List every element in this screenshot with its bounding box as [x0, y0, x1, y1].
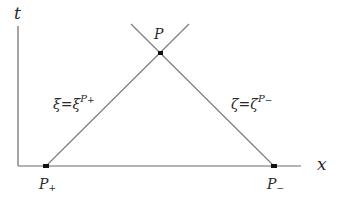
- xi-eq: =: [61, 96, 73, 112]
- point-p-plus-main: P: [39, 176, 48, 192]
- point-p-minus-main: P: [267, 176, 276, 192]
- point-p-plus-marker: [43, 164, 49, 168]
- characteristic-zeta-line: [131, 24, 274, 166]
- xi-sup-sub: +: [87, 95, 95, 105]
- xi-lhs: ξ: [53, 96, 61, 112]
- point-p-minus-sub: −: [276, 183, 284, 193]
- characteristics-diagram: t x P P+ P− ξ=ξP+ ζ=ζP−: [0, 0, 337, 199]
- point-p-plus-sub: +: [48, 183, 56, 193]
- zeta-equation-label: ζ=ζP−: [231, 97, 272, 111]
- x-axis-label: x: [317, 156, 327, 173]
- xi-superscript: P+: [80, 93, 94, 104]
- zeta-rhs: ζ: [250, 96, 258, 112]
- xi-rhs: ξ: [72, 96, 80, 112]
- point-p-label: P: [154, 27, 163, 41]
- t-axis-label: t: [14, 5, 21, 22]
- zeta-eq: =: [239, 96, 251, 112]
- point-p-minus-label: P−: [267, 177, 284, 191]
- zeta-sup-main: P: [258, 93, 265, 104]
- xi-sup-main: P: [80, 93, 87, 104]
- zeta-sup-sub: −: [265, 95, 273, 105]
- point-p-minus-marker: [271, 164, 277, 168]
- zeta-lhs: ζ: [231, 96, 239, 112]
- xi-equation-label: ξ=ξP+: [53, 97, 94, 111]
- point-p-marker: [158, 51, 163, 55]
- zeta-superscript: P−: [258, 93, 272, 104]
- characteristic-xi-line: [46, 24, 189, 166]
- point-p-plus-label: P+: [39, 177, 56, 191]
- diagram-canvas: [0, 0, 337, 199]
